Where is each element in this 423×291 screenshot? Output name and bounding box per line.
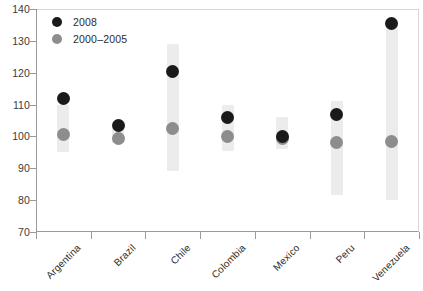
data-point-brazil-2008 (112, 119, 125, 132)
x-axis-tick-mark (255, 232, 256, 239)
legend-label-2000-2005: 2000–2005 (73, 33, 127, 45)
data-point-brazil-2000-2005 (112, 132, 125, 145)
data-point-venezuela-2000-2005 (385, 135, 398, 148)
data-point-chile-2008 (166, 65, 179, 78)
y-axis-tick-mark (30, 9, 37, 10)
range-bar-chile (167, 44, 179, 171)
y-axis-tick-mark (30, 73, 37, 74)
legend-label-2008: 2008 (73, 16, 97, 28)
chart-container: 140130120110100908070 ArgentinaBrazilChi… (0, 0, 423, 291)
legend-item-2000-2005: 2000–2005 (52, 30, 127, 47)
legend: 2008 2000–2005 (52, 13, 127, 47)
x-axis-label-argentina: Argentina (44, 242, 83, 281)
data-point-venezuela-2008 (385, 17, 398, 30)
y-axis-tick-mark (30, 105, 37, 106)
x-axis-tick-mark (419, 232, 420, 239)
x-axis-label-mexico: Mexico (271, 242, 302, 273)
legend-item-2008: 2008 (52, 13, 127, 30)
x-axis-label-chile: Chile (168, 242, 192, 266)
x-axis-tick-mark (91, 232, 92, 239)
x-axis-tick-mark (145, 232, 146, 239)
x-axis-label-peru: Peru (334, 242, 357, 265)
range-bar-venezuela (386, 20, 398, 200)
data-point-mexico-2008 (276, 130, 289, 143)
x-axis-tick-mark (200, 232, 201, 239)
x-axis-tick-mark (36, 232, 37, 239)
y-axis-tick-mark (30, 41, 37, 42)
data-point-colombia-2008 (221, 111, 234, 124)
data-point-argentina-2008 (57, 92, 70, 105)
y-axis-tick-mark (30, 136, 37, 137)
x-axis-tick-mark (364, 232, 365, 239)
y-axis-tick-mark (30, 168, 37, 169)
data-point-peru-2008 (330, 108, 343, 121)
x-axis-label-venezuela: Venezuela (370, 242, 412, 284)
data-point-colombia-2000-2005 (221, 130, 234, 143)
x-axis-tick-mark (310, 232, 311, 239)
y-axis-tick-mark (30, 200, 37, 201)
x-axis-label-brazil: Brazil (112, 242, 138, 268)
legend-swatch-2000-2005-icon (52, 34, 62, 44)
x-axis-label-colombia: Colombia (209, 242, 248, 281)
legend-swatch-2008-icon (52, 17, 62, 27)
